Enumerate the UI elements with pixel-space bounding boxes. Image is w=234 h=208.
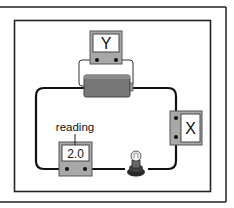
- circuit-diagram: Y X 2.0 reading: [0, 0, 234, 208]
- meter-x-label: X: [185, 120, 196, 137]
- meter-y-terminal-right: [114, 58, 118, 62]
- ammeter-terminal-left: [65, 167, 69, 171]
- meter-y: Y: [90, 31, 122, 64]
- meter-x-terminal-bottom: [174, 135, 178, 139]
- meter-y-label: Y: [101, 35, 112, 52]
- meter-x: X: [170, 111, 202, 145]
- ammeter: 2.0: [59, 142, 92, 176]
- lamp: [127, 151, 145, 177]
- ammeter-terminal-right: [83, 167, 87, 171]
- meter-y-terminal-left: [95, 58, 99, 62]
- reading-callout-label: reading: [56, 121, 94, 133]
- ammeter-display: 2.0: [67, 147, 84, 161]
- meter-x-terminal-top: [174, 116, 178, 120]
- cell: [84, 75, 133, 97]
